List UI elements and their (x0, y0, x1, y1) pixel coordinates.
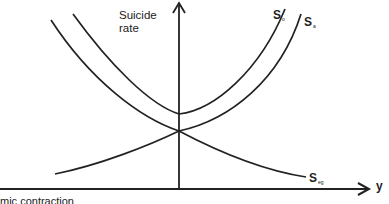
y-axis-label: Suicide rate (119, 9, 157, 35)
label-anomic: Sa (304, 16, 316, 29)
label-egoistic: Seg (309, 172, 324, 185)
label-overall-s: S (273, 8, 281, 22)
curve-egoistic-left (55, 131, 179, 174)
label-egoistic-sub: eg (318, 179, 324, 185)
label-overall: So (273, 9, 285, 22)
label-anomic-s: S (304, 15, 312, 29)
label-anomic-sub: a (313, 23, 316, 29)
label-overall-sub: o (282, 16, 285, 22)
y-axis-label-line2: rate (119, 22, 157, 35)
suicide-rate-diagram (0, 0, 389, 204)
y-axis-label-line1: Suicide (119, 9, 157, 22)
x-axis-label: y (376, 180, 383, 192)
curve-egoistic-right (179, 131, 306, 177)
label-egoistic-s: S (309, 171, 317, 185)
caption-partial: mic contraction (0, 196, 74, 204)
